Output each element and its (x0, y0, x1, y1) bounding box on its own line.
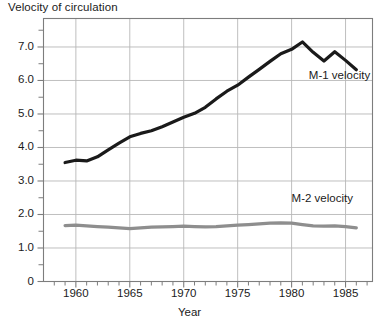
y-axis-tick-label: 7.0 (0, 41, 34, 53)
series-label-2: M-2 velocity (292, 192, 353, 204)
y-axis-tick-label: 1.0 (0, 242, 34, 254)
velocity-of-circulation-chart: Velocity of circulation 01.02.03.04.05.0… (0, 0, 379, 326)
x-axis-tick-label: 1985 (324, 288, 368, 300)
x-axis-tick-label: 1975 (216, 288, 260, 300)
x-axis-title: Year (0, 306, 379, 318)
x-axis-tick-label: 1965 (108, 288, 152, 300)
x-axis-tick-label: 1970 (162, 288, 206, 300)
y-axis-tick-label: 4.0 (0, 141, 34, 153)
x-axis-tick-label: 1980 (270, 288, 314, 300)
plot-canvas (0, 0, 379, 326)
y-axis-tick-label: 3.0 (0, 175, 34, 187)
x-axis-tick-label: 1960 (54, 288, 98, 300)
y-axis-tick-label: 0 (0, 276, 34, 288)
y-axis-tick-label: 5.0 (0, 108, 34, 120)
series-label-1: M-1 velocity (309, 69, 370, 81)
y-axis-tick-label: 6.0 (0, 74, 34, 86)
plot-background (44, 19, 373, 282)
y-axis-tick-label: 2.0 (0, 208, 34, 220)
